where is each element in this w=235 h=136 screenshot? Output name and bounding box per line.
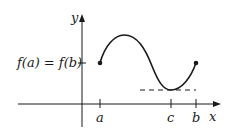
endpoint-a-dot xyxy=(98,61,103,66)
x-tick-label-a: a xyxy=(96,110,104,125)
endpoint-b-dot xyxy=(194,61,199,66)
function-curve xyxy=(100,35,196,90)
x-axis-arrow-icon xyxy=(213,101,221,107)
x-tick-label-b: b xyxy=(192,110,200,125)
y-axis-label: y xyxy=(70,10,79,25)
y-axis-arrow-icon xyxy=(79,14,85,22)
y-tick-label-fa-equals-fb: f(a) = f(b) xyxy=(16,55,82,70)
x-tick-label-c: c xyxy=(167,110,175,125)
x-axis-label: x xyxy=(209,109,217,124)
rolle-theorem-diagram: x y f(a) = f(b) a c b xyxy=(0,0,235,136)
